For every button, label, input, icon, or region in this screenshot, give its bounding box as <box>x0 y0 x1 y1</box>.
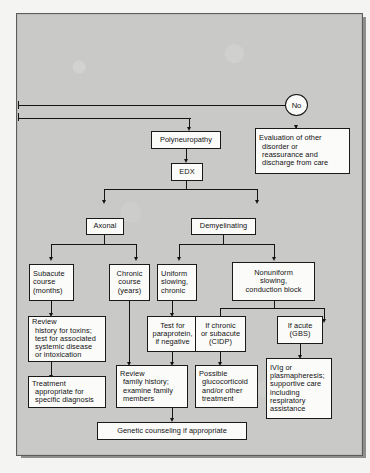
box-review-history-toxins[interactable]: Review history for toxins; test for asso… <box>28 316 106 362</box>
connector-demyelinating-split-bar <box>179 244 275 245</box>
box-test-paraprotein[interactable]: Test for paraprotein, if negative <box>147 316 198 352</box>
connector-chronic-to-review-family <box>129 301 130 363</box>
box-chronic-course[interactable]: Chronic course (years) <box>109 264 150 301</box>
connector-demyelinating-to-nonuniform <box>274 244 275 258</box>
arrowhead-to-uniform <box>177 257 181 261</box>
box-line: chronic <box>161 287 185 295</box>
box-possible-glucocorticoid[interactable]: Possible glucocorticoid and/or other tre… <box>195 365 258 408</box>
box-subacute-course[interactable]: Subacute course (months) <box>29 264 74 301</box>
arrowhead-to-subacute <box>49 257 53 261</box>
box-if-acute-gbs[interactable]: If acute (GBS) <box>277 316 323 344</box>
decision-node-no[interactable]: No <box>285 94 308 116</box>
box-polyneuropathy[interactable]: Polyneuropathy <box>151 131 221 149</box>
box-genetic-counseling[interactable]: Genetic counseling if appropriate <box>97 422 247 440</box>
box-line: (CIDP) <box>209 338 232 346</box>
box-line: Axonal <box>94 222 117 230</box>
arrowhead-to-chronic <box>134 257 138 261</box>
box-review-family-history[interactable]: Review family history; examine family me… <box>116 365 188 408</box>
box-ivig-plasmapheresis[interactable]: IVIg or plasmapheresis; supportive care … <box>266 358 332 419</box>
connector-rail-to-no <box>18 105 296 106</box>
box-edx[interactable]: EDX <box>171 163 203 181</box>
box-demyelinating[interactable]: Demyelinating <box>191 218 256 235</box>
box-line: (years) <box>118 287 141 295</box>
box-line: (GBS) <box>290 330 311 338</box>
figure-canvas: No Evaluation of other disorder or reass… <box>0 0 370 473</box>
connector-demyelinating-to-uniform <box>179 244 180 258</box>
box-line: Demyelinating <box>200 222 247 230</box>
connector-axonal-split-bar <box>51 244 137 245</box>
box-treatment-specific-diagnosis[interactable]: Treatment appropriate for specific diagn… <box>28 376 106 408</box>
arrowhead-to-demyelinating <box>255 200 259 204</box>
arrowhead-to-axonal <box>102 200 106 204</box>
arrowhead-to-nonuniform <box>272 257 276 261</box>
box-line: treatment <box>199 395 234 403</box>
box-line: discharge from care <box>259 159 328 167</box>
connector-rail-to-polyneuropathy <box>18 118 191 119</box>
box-line: Genetic counseling if appropriate <box>117 427 227 435</box>
connector-left-stub-lower <box>18 113 19 121</box>
box-line: conduction block <box>246 286 302 294</box>
box-evaluation-other[interactable]: Evaluation of other disorder or reassura… <box>255 128 350 174</box>
box-line: if negative <box>155 338 189 346</box>
connector-axonal-to-subacute <box>51 244 52 258</box>
box-uniform-slowing[interactable]: Uniform slowing, chronic <box>157 264 197 301</box>
connector-nonuniform-split-bar <box>220 308 325 309</box>
box-if-chronic-subacute[interactable]: If chronic or subacute (CIDP) <box>195 316 246 352</box>
box-line: members <box>120 395 154 403</box>
box-axonal[interactable]: Axonal <box>86 218 124 235</box>
box-line: Polyneuropathy <box>160 136 212 144</box>
box-line: (months) <box>33 287 63 295</box>
connector-axonal-to-chronic <box>136 244 137 258</box>
box-line: EDX <box>179 168 194 176</box>
connector-edx-split-bar <box>104 189 258 190</box>
box-line: assistance <box>270 405 305 413</box>
box-line: or intoxication <box>32 351 81 359</box>
decision-node-no-label: No <box>292 101 302 110</box>
connector-review-history-to-treatment <box>51 362 52 376</box>
box-line: specific diagnosis <box>32 396 94 404</box>
box-nonuniform-slowing[interactable]: Nonuniform slowing, conduction block <box>232 262 315 301</box>
flowchart-panel: No Evaluation of other disorder or reass… <box>16 13 363 456</box>
